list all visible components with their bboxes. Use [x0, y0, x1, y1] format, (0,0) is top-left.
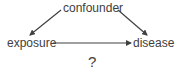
edge-confounder-to-exposure: [30, 10, 61, 35]
node-confounder: confounder: [63, 1, 123, 15]
node-exposure: exposure: [7, 36, 56, 50]
question-annotation: ?: [88, 53, 96, 70]
node-disease: disease: [133, 36, 174, 50]
